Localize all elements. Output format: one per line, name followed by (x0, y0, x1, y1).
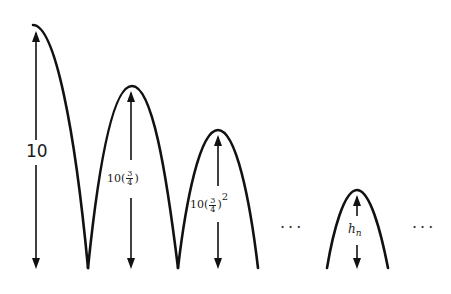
label-text: 10 (26, 141, 48, 161)
ellipsis-right: ··· (412, 220, 436, 236)
height-label-1: 10 (26, 143, 48, 160)
label-var: h (348, 222, 356, 236)
height-label-n: hn (348, 223, 362, 238)
fraction-denominator: 4 (209, 206, 216, 214)
height-label-2: 10(34) (107, 170, 139, 187)
bounce-diagram (0, 0, 451, 294)
fraction: 34 (209, 197, 216, 214)
exponent: 2 (222, 191, 228, 202)
label-close: ) (134, 172, 138, 185)
height-label-3: 10(34)2 (190, 192, 228, 214)
fraction-denominator: 4 (126, 179, 133, 187)
label-base: 10( (107, 172, 125, 185)
label-sub: n (356, 228, 362, 238)
label-base: 10( (190, 198, 208, 211)
ellipsis-left: ··· (280, 220, 304, 236)
fraction: 34 (126, 170, 133, 187)
